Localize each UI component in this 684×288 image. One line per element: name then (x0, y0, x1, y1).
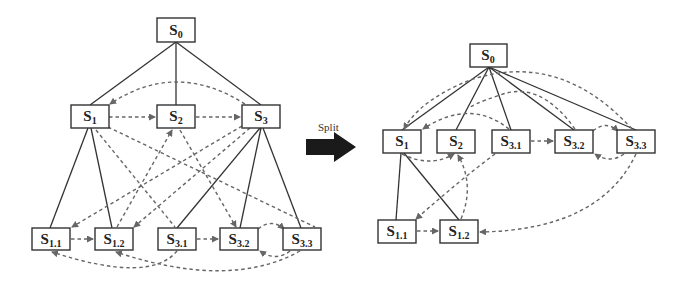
split-transition: Split (306, 121, 356, 162)
node-s3-1: S3.1 (492, 130, 530, 153)
node-s3-3: S3.3 (617, 130, 655, 153)
tree-edge-s3-s3-3 (263, 128, 301, 228)
dep-edge-s3-2-s3-3 (258, 224, 284, 230)
right-graph: S0 S1 S2 S3.1 S3.2 S3.3 S1.1 S1.2 (378, 44, 655, 243)
dep-edge-s3-3-s3-2 (260, 251, 290, 257)
dep-edge-s3-s1-2 (134, 128, 250, 227)
node-s3-1: S3.1 (158, 228, 196, 250)
split-label: Split (318, 121, 339, 133)
node-s1: S1 (383, 130, 421, 153)
node-s3-2: S3.2 (220, 228, 258, 250)
dep-edge-s3-s1 (110, 82, 245, 104)
node-s1: S1 (71, 105, 109, 128)
dep-edge-s3-s1-1 (72, 126, 242, 227)
dep-edge-s3-3-s1-2 (116, 251, 300, 271)
dep-edge-s3-1-s1-1 (52, 251, 177, 268)
tree-edge-s1-s1-1 (50, 128, 88, 228)
left-graph: S0 S1 S2 S3 S1.1 S1.2 S3.1 S3.2 (32, 18, 321, 271)
tree-edge-s0-s1 (402, 67, 489, 130)
dep-edge-s1-2-s2 (458, 155, 467, 219)
tree-edge-s0-s1 (90, 42, 176, 105)
node-s2: S2 (437, 130, 475, 153)
state-split-diagram: S0 S1 S2 S3 S1.1 S1.2 S3.1 S3.2 (0, 0, 684, 288)
dep-edge-s3-3-s1-2 (480, 154, 636, 232)
dep-edge-s3-3-s1 (404, 72, 632, 129)
dep-edge-s3-1-s1-1 (416, 154, 495, 219)
tree-edge-s1-s1-1 (396, 153, 401, 220)
split-arrow-icon (306, 132, 356, 162)
tree-edge-s0-s3-1 (489, 67, 511, 130)
dep-edge-s3-1-s1 (423, 114, 509, 130)
node-s1-2: S1.2 (95, 228, 133, 250)
dep-edge-s1-s3-3 (108, 127, 315, 227)
tree-edge-s0-s3 (176, 42, 261, 105)
dep-edge-s3-2-s3-3 (593, 126, 618, 132)
node-s0: S0 (470, 44, 507, 67)
tree-edge-s0-s3-3 (489, 67, 636, 130)
left-tree-edges (50, 42, 301, 228)
dep-edge-s3-3-s3-2 (595, 154, 624, 159)
node-s2: S2 (157, 105, 195, 128)
tree-edge-s1-s1-2 (404, 153, 459, 220)
tree-edge-s1-s1-2 (91, 128, 112, 228)
node-s1-1: S1.1 (32, 228, 70, 250)
node-s3-2: S3.2 (555, 130, 593, 153)
node-s1-1: S1.1 (378, 220, 416, 243)
dep-edge-s2-s3-2 (180, 130, 236, 227)
node-s1-2: S1.2 (440, 220, 478, 243)
node-s0: S0 (157, 18, 195, 42)
tree-edge-s3-s3-2 (240, 128, 261, 228)
tree-edge-s3-s3-1 (177, 128, 260, 228)
node-s3: S3 (242, 105, 280, 128)
node-s3-3: S3.3 (283, 228, 321, 250)
